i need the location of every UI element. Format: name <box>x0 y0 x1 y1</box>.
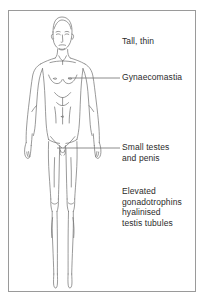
annotation-gynaecomastia: Gynaecomastia <box>122 72 182 83</box>
right-foot <box>68 274 72 288</box>
annotation-elevated-gonadotrophins: Elevated gonadotrophins hyalinised testi… <box>122 186 182 228</box>
left-nipple <box>54 78 57 79</box>
right-knee <box>68 203 74 205</box>
clinical-features-diagram: Tall, thin Gynaecomastia Small testes an… <box>0 0 204 303</box>
head-outline <box>53 17 72 50</box>
left-knee <box>52 203 58 205</box>
right-nipple <box>69 78 72 79</box>
annotation-tall-thin: Tall, thin <box>122 36 154 47</box>
male-body-illustration <box>14 12 110 292</box>
annotation-small-testes: Small testes and penis <box>122 142 169 163</box>
left-foot <box>54 274 58 288</box>
